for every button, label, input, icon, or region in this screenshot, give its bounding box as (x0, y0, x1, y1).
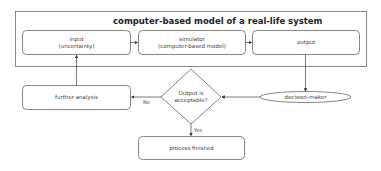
input-label: input (uncertainty) (22, 30, 131, 55)
no-label: No (143, 99, 150, 105)
decision-line1: Output is (178, 90, 203, 97)
simulator-line1: simulator (179, 36, 205, 43)
decision-maker-label: decision-maker (260, 92, 351, 103)
process-finished-label: process finished (138, 136, 245, 160)
yes-label: Yes (194, 127, 202, 133)
further-analysis-label: further analysis (22, 85, 131, 110)
input-line2: (uncertainty) (59, 43, 95, 50)
output-label: output (252, 30, 360, 55)
decision-line2: acceptable? (174, 97, 207, 104)
decision-label: Output is acceptable? (166, 86, 216, 108)
container-title: computer-based model of a real-life syst… (113, 16, 322, 26)
simulator-label: simulator (computer-based model) (138, 30, 246, 55)
simulator-line2: (computer-based model) (158, 43, 226, 50)
input-line1: input (69, 36, 83, 43)
